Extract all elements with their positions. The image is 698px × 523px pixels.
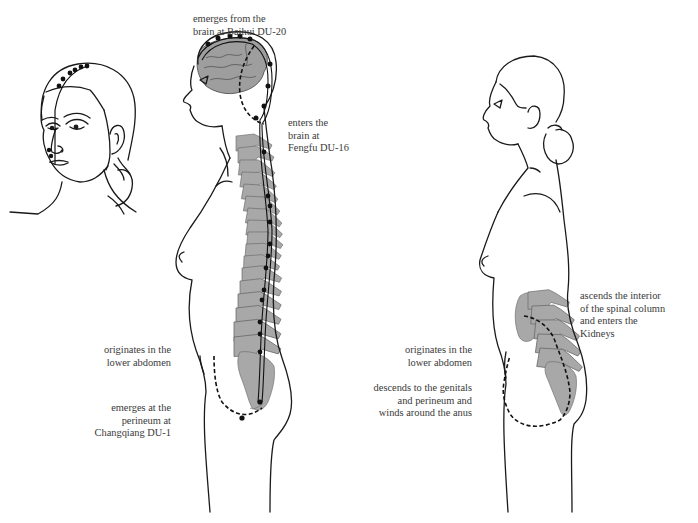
anatomy-illustration <box>0 0 698 523</box>
label-line: Fengfu DU-16 <box>288 142 349 155</box>
label-left-origin: originates in the lower abdomen <box>96 344 171 369</box>
label-baihui: emerges from the brain at Baihui DU-20 <box>193 13 286 38</box>
label-line: descends to the genitals <box>362 382 472 395</box>
label-descends: descends to the genitals and perineum an… <box>362 382 472 420</box>
label-fengfu: enters the brain at Fengfu DU-16 <box>288 117 349 155</box>
label-line: Kidneys <box>580 328 665 341</box>
label-line: brain at <box>288 130 349 143</box>
label-line: originates in the <box>96 344 171 357</box>
label-line: winds around the anus <box>362 407 472 420</box>
sacrum-shape <box>238 352 275 410</box>
label-line: lower abdomen <box>396 357 472 370</box>
label-line: and enters the <box>580 315 665 328</box>
label-line: of the spinal column <box>580 303 665 316</box>
frontal-head-figure <box>10 63 136 214</box>
label-line: and perineum and <box>362 395 472 408</box>
internal-branch-figure <box>480 56 587 512</box>
label-line: perineum at <box>86 415 171 428</box>
label-changqiang: emerges at the perineum at Changqiang DU… <box>86 402 171 440</box>
sacrum-shape-right <box>545 362 577 416</box>
label-line: Changqiang DU-1 <box>86 427 171 440</box>
label-line: brain at Baihui DU-20 <box>193 26 286 39</box>
label-ascends: ascends the interior of the spinal colum… <box>580 290 665 340</box>
label-line: lower abdomen <box>96 357 171 370</box>
label-right-origin: originates in the lower abdomen <box>396 344 472 369</box>
label-line: enters the <box>288 117 349 130</box>
label-line: originates in the <box>396 344 472 357</box>
main-channel-figure <box>176 32 292 512</box>
label-line: emerges from the <box>193 13 286 26</box>
label-line: ascends the interior <box>580 290 665 303</box>
diagram-stage: emerges from the brain at Baihui DU-20 e… <box>0 0 698 523</box>
label-line: emerges at the <box>86 402 171 415</box>
